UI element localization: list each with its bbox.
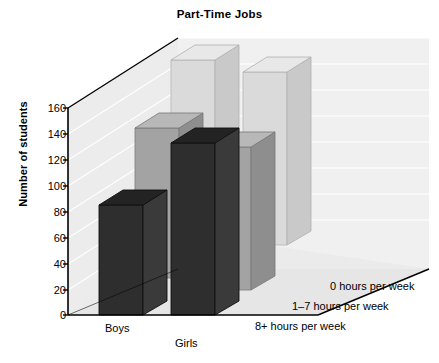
category-label-girls: Girls — [175, 337, 198, 349]
bar-boys-8-plus-hours — [99, 190, 167, 315]
chart-container: Part-Time Jobs Number of students 160 14… — [0, 0, 439, 363]
depth-label-0-hours: 0 hours per week — [330, 280, 414, 292]
bar-girls-8-plus-hours — [171, 128, 239, 315]
category-label-boys: Boys — [105, 322, 129, 334]
depth-label-1-7-hours: 1–7 hours per week — [292, 300, 389, 312]
depth-label-8-plus-hours: 8+ hours per week — [255, 320, 346, 332]
